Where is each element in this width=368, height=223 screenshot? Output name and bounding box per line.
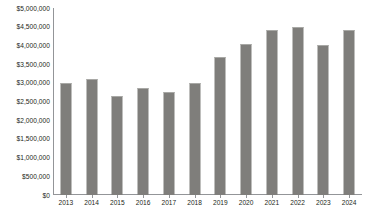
x-axis-tick-mark: [66, 195, 67, 198]
y-axis-tick-label: $1,500,000: [0, 135, 50, 142]
x-axis: 2013201420152016201720182019202020212022…: [53, 198, 362, 212]
y-axis: $0$500,000$1,000,000$1,500,000$2,000,000…: [0, 0, 50, 223]
x-axis-tick-label: 2024: [336, 198, 362, 207]
bar-2015: [112, 96, 123, 195]
x-axis-tick-label: 2013: [53, 198, 79, 207]
bar-slot: [285, 8, 311, 195]
x-axis-tick-label: 2017: [156, 198, 182, 207]
bar-slot: [105, 8, 131, 195]
bar-slot: [233, 8, 259, 195]
x-axis-tick-mark: [246, 195, 247, 198]
x-axis-tick-label: 2014: [79, 198, 105, 207]
y-axis-tick-label: $3,500,000: [0, 61, 50, 68]
x-axis-tick-label: 2018: [182, 198, 208, 207]
x-axis-tick-mark: [92, 195, 93, 198]
y-axis-tick-label: $3,000,000: [0, 79, 50, 86]
x-axis-tick-mark: [220, 195, 221, 198]
bar-slot: [79, 8, 105, 195]
x-axis-tick-mark: [117, 195, 118, 198]
y-axis-tick-label: $500,000: [0, 173, 50, 180]
bar-slot: [336, 8, 362, 195]
plot-area: [53, 8, 362, 195]
bar-slot: [311, 8, 337, 195]
y-axis-tick-label: $0: [0, 192, 50, 199]
bar-slot: [156, 8, 182, 195]
x-axis-tick-mark: [169, 195, 170, 198]
bar-2020: [241, 44, 252, 195]
bar-slot: [208, 8, 234, 195]
y-axis-tick-label: $2,000,000: [0, 117, 50, 124]
bar-2021: [266, 30, 277, 195]
y-axis-tick-label: $5,000,000: [0, 5, 50, 12]
y-axis-tick-label: $4,500,000: [0, 23, 50, 30]
bar-slot: [182, 8, 208, 195]
y-axis-tick-label: $2,500,000: [0, 98, 50, 105]
bar-2017: [163, 92, 174, 195]
y-axis-tick-label: $1,000,000: [0, 154, 50, 161]
bar-2018: [189, 83, 200, 195]
bar-2013: [60, 83, 71, 195]
x-axis-tick-label: 2019: [208, 198, 234, 207]
bar-series: [53, 8, 362, 195]
bar-slot: [130, 8, 156, 195]
y-axis-tick-label: $4,000,000: [0, 42, 50, 49]
bar-slot: [53, 8, 79, 195]
x-axis-tick-mark: [298, 195, 299, 198]
x-axis-tick-label: 2023: [311, 198, 337, 207]
bar-slot: [259, 8, 285, 195]
x-axis-tick-label: 2021: [259, 198, 285, 207]
bar-2023: [318, 45, 329, 195]
bar-2024: [344, 30, 355, 195]
x-axis-tick-mark: [143, 195, 144, 198]
x-axis-tick-label: 2022: [285, 198, 311, 207]
x-axis-tick-mark: [349, 195, 350, 198]
x-axis-tick-label: 2020: [233, 198, 259, 207]
bar-2019: [215, 57, 226, 195]
bar-2016: [138, 88, 149, 195]
x-axis-tick-mark: [323, 195, 324, 198]
x-axis-tick-label: 2015: [105, 198, 131, 207]
x-axis-tick-mark: [195, 195, 196, 198]
bar-chart: $0$500,000$1,000,000$1,500,000$2,000,000…: [0, 0, 368, 223]
x-axis-tick-mark: [272, 195, 273, 198]
bar-2014: [86, 79, 97, 195]
bar-2022: [292, 27, 303, 195]
x-axis-tick-label: 2016: [130, 198, 156, 207]
